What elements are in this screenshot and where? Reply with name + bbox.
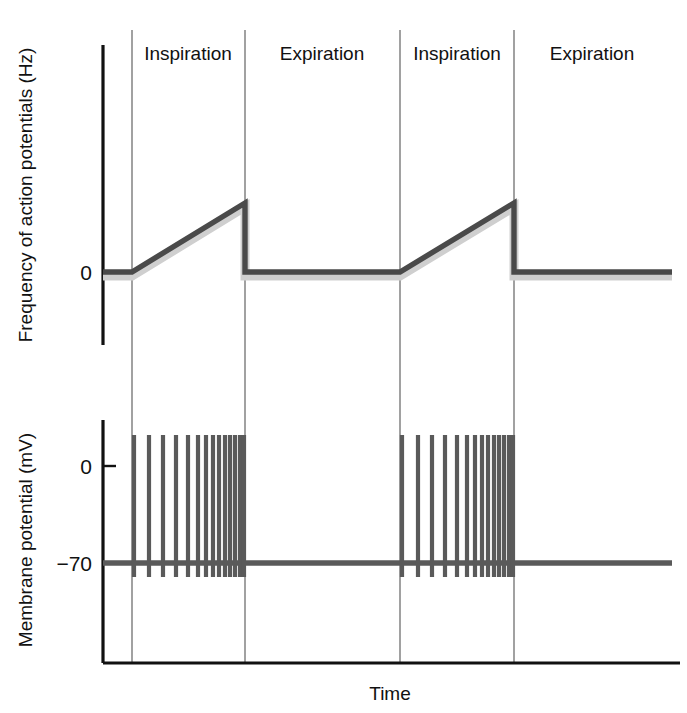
time-x-axis-title: Time xyxy=(369,683,411,704)
frequency-panel: 0 Frequency of action potentials (Hz) xyxy=(15,45,672,345)
frequency-zero-tick-label: 0 xyxy=(80,261,92,284)
action-potential-burst-2 xyxy=(402,435,513,577)
frequency-trace xyxy=(103,203,672,272)
phase-label-inspiration-2: Inspiration xyxy=(413,43,501,64)
phase-label-inspiration-1: Inspiration xyxy=(144,43,232,64)
membrane-rest-tick-label: −70 xyxy=(56,552,92,575)
membrane-y-axis-title: Membrane potential (mV) xyxy=(15,433,36,647)
frequency-y-axis-title: Frequency of action potentials (Hz) xyxy=(15,48,36,343)
membrane-potential-panel: 0 −70 xyxy=(15,420,680,704)
phase-label-expiration-2: Expiration xyxy=(550,43,635,64)
phase-label-group: Inspiration Expiration Inspiration Expir… xyxy=(144,43,634,64)
frequency-trace-shadow xyxy=(103,207,672,276)
action-potential-burst-1 xyxy=(134,435,244,577)
membrane-zero-tick-label: 0 xyxy=(80,455,92,478)
phase-label-expiration-1: Expiration xyxy=(280,43,365,64)
figure-svg: Inspiration Expiration Inspiration Expir… xyxy=(0,0,687,713)
respiratory-neuron-figure: Inspiration Expiration Inspiration Expir… xyxy=(0,0,687,713)
